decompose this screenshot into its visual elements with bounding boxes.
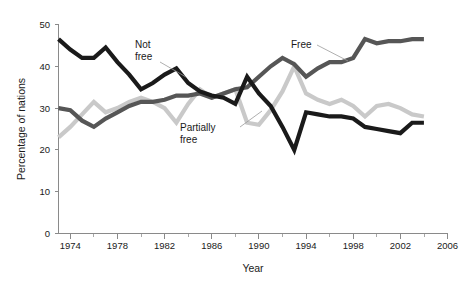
y-tick-label-40: 40: [39, 61, 50, 72]
annotation-free: Free: [291, 39, 312, 50]
x-tick-label-2006: 2006: [437, 240, 458, 251]
x-tick-label-1978: 1978: [107, 240, 128, 251]
annotation-not-free-line2: free: [135, 51, 153, 62]
x-tick-label-1998: 1998: [343, 240, 364, 251]
chart-figure: 50 40 30 20 10 0: [0, 0, 465, 283]
x-tick-label-2002: 2002: [390, 240, 411, 251]
y-axis-ticks: [55, 25, 59, 234]
plot-series-group: [59, 39, 424, 150]
x-tick-label-1982: 1982: [154, 240, 175, 251]
annotation-not-free-line1: Not: [135, 39, 151, 50]
y-tick-label-20: 20: [39, 144, 50, 155]
annotation-not-free: Not free: [135, 39, 153, 62]
y-axis-tick-labels: 50 40 30 20 10 0: [39, 19, 50, 239]
x-tick-label-1986: 1986: [201, 240, 222, 251]
x-axis-tick-labels: 1974 1978 1982 1986 1990 1994 1998 2002 …: [60, 240, 458, 251]
x-tick-label-1974: 1974: [60, 240, 81, 251]
y-axis-title: Percentage of nations: [15, 78, 27, 180]
x-axis-ticks: [70, 234, 447, 239]
y-tick-label-30: 30: [39, 103, 50, 114]
x-tick-label-1990: 1990: [248, 240, 269, 251]
annotation-free-line1: Free: [291, 39, 312, 50]
annotation-partially-free-line2: free: [180, 134, 198, 145]
x-tick-label-1994: 1994: [296, 240, 317, 251]
leader-line-free: [317, 45, 348, 61]
y-tick-label-50: 50: [39, 19, 50, 30]
y-tick-label-0: 0: [45, 228, 50, 239]
line-chart: 50 40 30 20 10 0: [0, 0, 465, 283]
x-axis-title: Year: [242, 262, 264, 274]
series-line-not-free: [59, 39, 424, 150]
y-tick-label-10: 10: [39, 186, 50, 197]
annotation-partially-free-line1: Partially: [180, 122, 216, 133]
annotation-partially-free: Partially free: [180, 122, 216, 145]
